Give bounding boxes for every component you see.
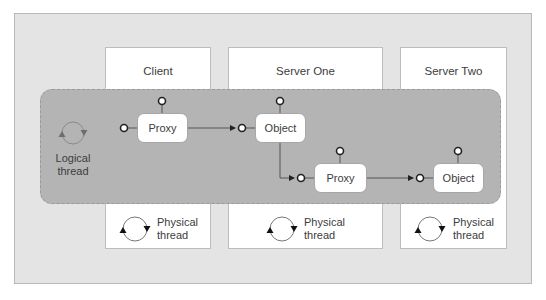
- physical-thread-label-line2: thread: [304, 229, 345, 242]
- port-icon: [455, 148, 462, 164]
- proxy-node-server-one: Proxy: [314, 163, 367, 193]
- physical-thread-label-line2: thread: [453, 229, 494, 242]
- object-node-server-one: Object: [255, 113, 306, 143]
- object-node-server-two: Object: [433, 163, 484, 193]
- port-icon: [159, 98, 166, 114]
- logical-thread-label-line2: thread: [43, 165, 103, 178]
- physical-thread-label-line1: Physical: [453, 216, 494, 229]
- physical-thread-label-line1: Physical: [157, 216, 198, 229]
- port-icon: [337, 148, 344, 164]
- physical-thread-cycle-icon: [415, 217, 446, 241]
- physical-thread-label-server-one: Physical thread: [304, 216, 345, 242]
- physical-thread-cycle-icon: [267, 217, 298, 241]
- logical-thread-label: Logical thread: [43, 152, 103, 178]
- physical-thread-label-server-two: Physical thread: [453, 216, 494, 242]
- logical-thread-cycle-icon: [59, 122, 88, 144]
- physical-thread-cycle-icon: [120, 217, 151, 241]
- port-icon: [121, 125, 138, 132]
- physical-thread-label-line2: thread: [157, 229, 198, 242]
- port-icon: [298, 175, 315, 182]
- port-icon: [239, 125, 256, 132]
- proxy-node-client: Proxy: [137, 113, 188, 143]
- physical-thread-label-client: Physical thread: [157, 216, 198, 242]
- port-icon: [417, 175, 434, 182]
- port-icon: [277, 98, 284, 114]
- edge-object1-proxy2: [280, 143, 294, 178]
- physical-thread-label-line1: Physical: [304, 216, 345, 229]
- logical-thread-label-line1: Logical: [43, 152, 103, 165]
- connectors-layer: [0, 0, 546, 300]
